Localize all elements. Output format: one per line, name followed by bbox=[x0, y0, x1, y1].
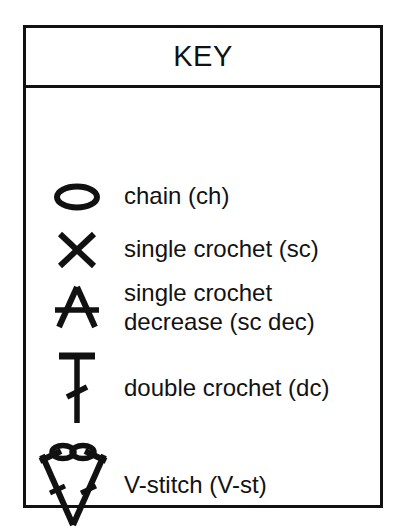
symbol-cell-single-crochet-decrease bbox=[34, 276, 120, 338]
symbol-cell-single-crochet bbox=[34, 226, 120, 274]
double-crochet-symbol bbox=[54, 351, 100, 427]
key-panel: KEY chain (ch) single crochet (s bbox=[23, 25, 383, 508]
label-cell-single-crochet-decrease: single crochet decrease (sc dec) bbox=[124, 278, 380, 336]
label-cell-single-crochet: single crochet (sc) bbox=[124, 234, 380, 263]
key-row-chain: chain (ch) bbox=[26, 174, 380, 220]
key-row-single-crochet-decrease: single crochet decrease (sc dec) bbox=[26, 276, 380, 338]
key-title: KEY bbox=[173, 40, 233, 73]
single-crochet-decrease-symbol bbox=[51, 284, 103, 330]
label-cell-double-crochet: double crochet (dc) bbox=[124, 373, 380, 402]
symbol-cell-v-stitch bbox=[26, 440, 120, 528]
key-row-double-crochet: double crochet (dc) bbox=[26, 346, 380, 432]
label-cell-chain: chain (ch) bbox=[124, 181, 380, 210]
label-line: single crochet (sc) bbox=[124, 234, 380, 263]
label-line: chain (ch) bbox=[124, 181, 380, 210]
label-line: double crochet (dc) bbox=[124, 373, 380, 402]
v-stitch-symbol bbox=[34, 441, 112, 528]
key-body: chain (ch) single crochet (sc) bbox=[26, 88, 380, 508]
label-line: V-stitch (V-st) bbox=[124, 470, 380, 499]
key-header: KEY bbox=[26, 28, 380, 88]
label-line: decrease (sc dec) bbox=[124, 307, 380, 336]
key-row-single-crochet: single crochet (sc) bbox=[26, 226, 380, 274]
symbol-cell-double-crochet bbox=[34, 346, 120, 432]
label-line: single crochet bbox=[124, 278, 380, 307]
key-row-v-stitch: V-stitch (V-st) bbox=[26, 440, 380, 528]
label-cell-v-stitch: V-stitch (V-st) bbox=[124, 470, 380, 499]
single-crochet-symbol bbox=[55, 230, 99, 270]
symbol-cell-chain bbox=[34, 174, 120, 220]
chain-symbol bbox=[49, 180, 105, 214]
